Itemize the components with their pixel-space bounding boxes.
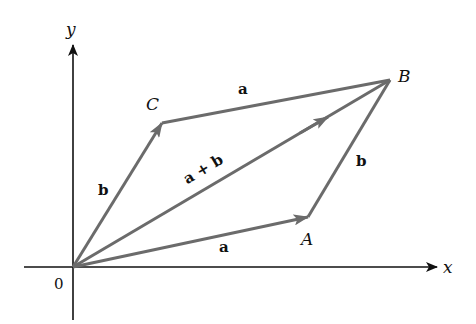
- point-label-A: A: [299, 229, 313, 249]
- vector-OB-arrowhead: [300, 117, 328, 133]
- x-axis-label: x: [443, 257, 453, 277]
- origin-vectors: [73, 80, 390, 267]
- point-label-C: C: [146, 94, 159, 114]
- vector-OC: [73, 123, 162, 267]
- origin-label: 0: [54, 275, 64, 293]
- label-vector-OA: a: [219, 238, 229, 256]
- label-vector-CB: a: [238, 80, 248, 98]
- label-vector-AB: b: [356, 152, 367, 170]
- y-axis-label: y: [65, 19, 76, 39]
- vector-OA: [73, 217, 308, 267]
- vector-AB: [308, 80, 390, 217]
- vector-OB: [73, 80, 390, 267]
- label-vector-OC: b: [98, 181, 109, 199]
- parallelogram-vector-diagram: x y 0 A B C a b a + b a b: [0, 0, 476, 324]
- point-label-B: B: [397, 66, 411, 86]
- point-labels: A B C: [146, 66, 411, 249]
